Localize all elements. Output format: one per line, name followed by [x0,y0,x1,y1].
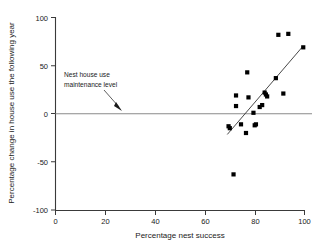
x-tick-label-100: 100 [298,217,311,226]
y-tick-label-50: 50 [40,62,48,71]
y-tick-label-neg100: -100 [33,206,48,215]
data-point [228,126,232,130]
data-point-group [226,32,305,177]
x-tick-marks [56,211,305,216]
data-point [276,33,280,37]
x-tick-label-40: 40 [151,217,159,226]
y-tick-label-0: 0 [44,110,48,119]
x-tick-label-60: 60 [201,217,209,226]
y-tick-marks [51,18,56,211]
x-tick-label-20: 20 [101,217,109,226]
x-tick-label-80: 80 [251,217,259,226]
data-point [234,93,238,97]
data-point [286,32,290,36]
data-point [260,103,264,107]
scatter-plot-figure: 100 50 0 -50 -100 0 20 40 60 80 100 [0,0,322,242]
y-axis-title: Percentage change in house use the follo… [7,22,16,204]
data-point [251,111,255,115]
annotation-group: Nest house use maintenance level [64,71,122,111]
y-tick-label-neg50: -50 [37,158,48,167]
data-point [281,91,285,95]
data-point [265,94,269,98]
data-point [244,131,248,135]
data-point [231,172,235,176]
data-point [246,95,250,99]
data-point [234,104,238,108]
chart-canvas: 100 50 0 -50 -100 0 20 40 60 80 100 [0,0,322,242]
x-axis-title: Percentage nest success [135,231,224,240]
data-point [239,122,243,126]
data-point [301,45,305,49]
annotation-line-1: Nest house use [64,71,110,78]
y-tick-label-100: 100 [35,14,48,23]
annotation-arrow-head [114,102,122,111]
x-tick-labels: 0 20 40 60 80 100 [53,217,310,226]
data-point [274,76,278,80]
data-point [245,70,249,74]
x-tick-label-0: 0 [53,217,57,226]
data-point [254,122,258,126]
annotation-line-2: maintenance level [64,81,118,88]
y-tick-labels: 100 50 0 -50 -100 [33,14,48,216]
